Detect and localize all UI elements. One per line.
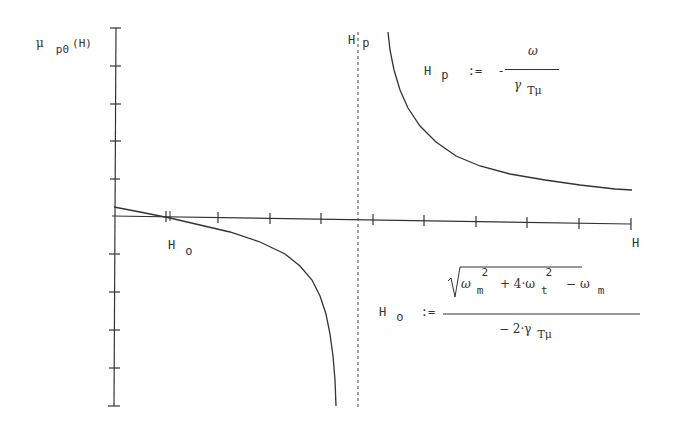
y-axis-label: μp0(H) <box>36 36 92 50</box>
hp-asymptote-label: Hp <box>348 33 369 47</box>
formula-ho-denominator: − 2·γTμ <box>499 322 552 336</box>
formula-hp-numerator: ω <box>506 44 560 58</box>
curve-lower-branch <box>114 207 336 406</box>
formula-hp-fraction-bar <box>505 69 559 70</box>
formula-ho-numerator: ωm2 + 4·ωt2 − ωm <box>461 277 604 291</box>
x-axis-label: H <box>632 236 639 250</box>
plot-canvas <box>0 0 680 430</box>
y-axis <box>114 28 116 406</box>
formula-hp-denominator: γTμ <box>514 78 542 92</box>
formula-ho: Ho := <box>379 305 435 319</box>
ho-zero-label: Ho <box>168 238 192 252</box>
formula-hp: Hp := - <box>424 64 505 78</box>
